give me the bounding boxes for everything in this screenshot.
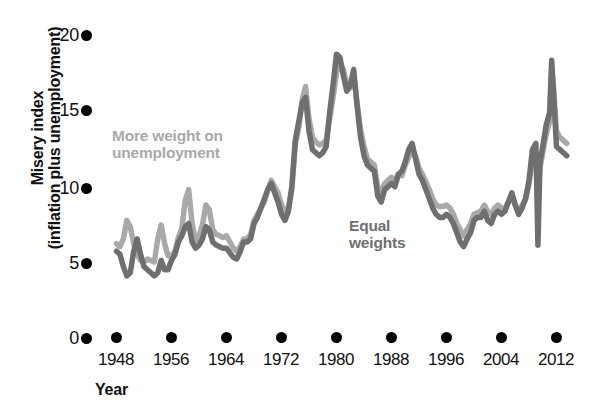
x-tick-dot-1964 (221, 332, 232, 343)
x-tick-dot-1972 (276, 332, 287, 343)
annotation-equal-weights: Equal weights (349, 217, 405, 252)
x-tick-label-2004: 2004 (473, 350, 529, 370)
annotation-dark-line2: weights (349, 234, 405, 251)
annotation-dark-line1: Equal (349, 217, 405, 234)
x-tick-dot-1948 (111, 332, 122, 343)
x-axis-title: Year (95, 381, 128, 399)
x-tick-label-1980: 1980 (308, 350, 364, 370)
annotation-light-line2: unemployment (112, 144, 223, 161)
x-tick-dot-1956 (166, 332, 177, 343)
x-tick-dot-1980 (331, 332, 342, 343)
series-line-equal-weights (117, 54, 567, 276)
x-tick-label-1972: 1972 (253, 350, 309, 370)
x-tick-label-1996: 1996 (418, 350, 474, 370)
x-tick-label-1964: 1964 (198, 350, 254, 370)
x-tick-dot-1996 (441, 332, 452, 343)
x-tick-label-1948: 1948 (88, 350, 144, 370)
x-tick-label-2012: 2012 (528, 350, 584, 370)
x-tick-dot-1988 (386, 332, 397, 343)
annotation-more-weight-on-unemployment: More weight on unemployment (112, 127, 223, 162)
misery-index-chart: Misery index (inflation plus unemploymen… (0, 0, 591, 419)
x-tick-label-1988: 1988 (363, 350, 419, 370)
x-tick-label-1956: 1956 (143, 350, 199, 370)
x-tick-dot-2004 (496, 332, 507, 343)
annotation-light-line1: More weight on (112, 127, 223, 144)
x-tick-dot-2012 (551, 332, 562, 343)
